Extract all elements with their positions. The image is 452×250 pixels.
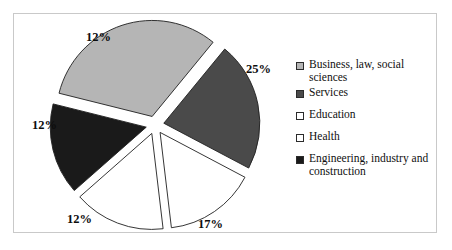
pie-plot-area: 25% 17% 12% 12% 12% [14, 14, 304, 232]
slice-value-label-education: 12% [67, 212, 92, 227]
legend-swatch-icon-education [296, 112, 304, 120]
legend-swatch-icon-engineering [296, 156, 304, 164]
legend-swatch-icon-health [296, 134, 304, 142]
slice-value-label-health: 12% [32, 118, 57, 133]
legend-item-health[interactable]: Health [296, 130, 436, 143]
legend-item-business[interactable]: Business, law, social sciences [296, 58, 436, 84]
pie-slice-group [50, 20, 260, 229]
legend-item-education[interactable]: Education [296, 108, 436, 121]
legend-label-health: Health [309, 130, 340, 143]
legend-label-business: Business, law, social sciences [309, 58, 436, 84]
chart-legend: Business, law, social sciences Services … [296, 58, 436, 187]
slice-value-label-business: 25% [246, 62, 271, 77]
slice-value-label-engineering: 12% [86, 30, 111, 45]
pie-chart-figure: 25% 17% 12% 12% 12% Business, law, socia… [0, 0, 452, 250]
legend-label-engineering: Engineering, industry and construction [309, 152, 436, 178]
slice-value-label-services: 17% [198, 217, 223, 232]
legend-item-services[interactable]: Services [296, 86, 436, 99]
legend-item-engineering[interactable]: Engineering, industry and construction [296, 152, 436, 178]
legend-swatch-icon-business [296, 62, 304, 70]
legend-label-education: Education [309, 108, 356, 121]
legend-swatch-icon-services [296, 90, 304, 98]
legend-label-services: Services [309, 86, 348, 99]
pie-svg [14, 14, 304, 232]
